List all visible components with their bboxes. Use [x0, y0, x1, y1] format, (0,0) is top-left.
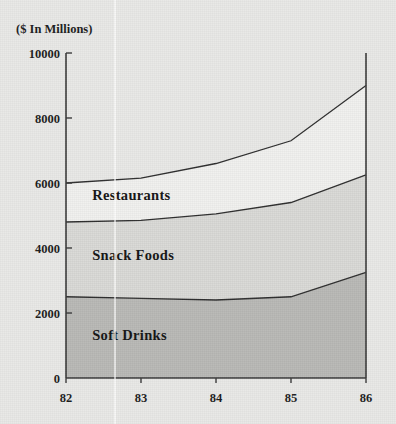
y-tick-label: 6000 — [35, 177, 60, 191]
y-tick-label: 8000 — [35, 112, 60, 126]
y-tick-label: 4000 — [35, 242, 60, 256]
series-label-restaurants: Restaurants — [92, 187, 170, 203]
x-tick-label: 83 — [135, 391, 148, 405]
y-tick-label: 10000 — [29, 47, 60, 61]
chart-svg: ($ In Millions) 0200040006000800010000 8… — [0, 0, 396, 424]
y-axis-tick-labels: 0200040006000800010000 — [29, 47, 60, 386]
x-tick-label: 82 — [60, 391, 73, 405]
x-tick-label: 84 — [210, 391, 223, 405]
stacked-area-chart: ($ In Millions) 0200040006000800010000 8… — [0, 0, 396, 424]
y-tick-label: 0 — [54, 372, 60, 386]
x-axis-tick-labels: 8283848586 — [60, 391, 373, 405]
series-label-soft-drinks: Soft Drinks — [92, 327, 167, 343]
series-label-snack-foods: Snack Foods — [92, 247, 174, 263]
x-tick-label: 86 — [360, 391, 373, 405]
x-tick-label: 85 — [285, 391, 298, 405]
y-tick-label: 2000 — [35, 307, 60, 321]
chart-units-title: ($ In Millions) — [16, 22, 92, 36]
